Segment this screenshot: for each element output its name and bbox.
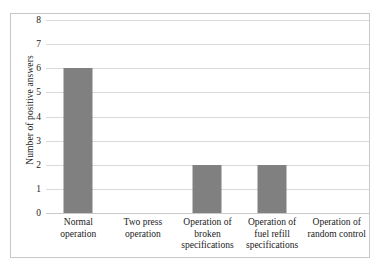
gridline bbox=[46, 213, 369, 214]
bar-slot bbox=[304, 20, 369, 213]
bar bbox=[193, 165, 222, 213]
y-axis-tick-label: 4 bbox=[36, 112, 41, 122]
y-axis-tick-label: 2 bbox=[36, 160, 41, 170]
bar-slot bbox=[240, 20, 305, 213]
y-axis-tick-label: 7 bbox=[36, 39, 41, 49]
x-axis-tick-label: Two press operation bbox=[111, 217, 176, 252]
bar bbox=[64, 68, 93, 213]
y-axis-tick-label: 0 bbox=[36, 208, 41, 218]
bar-slot bbox=[111, 20, 176, 213]
y-axis-tick-label: 5 bbox=[36, 87, 41, 97]
x-axis-tick-label: Operation of fuel refill specifications bbox=[240, 217, 305, 252]
x-axis-tick-label: Operation of random control bbox=[304, 217, 369, 252]
bar bbox=[258, 165, 287, 213]
plot-area: 012345678 bbox=[46, 20, 369, 213]
x-axis-tick-label: Operation of broken specifications bbox=[175, 217, 240, 252]
bar-series bbox=[46, 20, 369, 213]
y-axis-title: Number of positive answers bbox=[23, 10, 37, 210]
y-axis-tick-label: 6 bbox=[36, 63, 41, 73]
y-axis-tick-label: 3 bbox=[36, 136, 41, 146]
y-axis-tick-label: 8 bbox=[36, 15, 41, 25]
x-axis-tick-label: Normal operation bbox=[46, 217, 111, 252]
chart-figure: Number of positive answers 012345678 Nor… bbox=[10, 13, 370, 258]
x-axis-tick-labels: Normal operationTwo press operationOpera… bbox=[46, 217, 369, 252]
y-axis-tick-label: 1 bbox=[36, 184, 41, 194]
bar-slot bbox=[46, 20, 111, 213]
bar-slot bbox=[175, 20, 240, 213]
